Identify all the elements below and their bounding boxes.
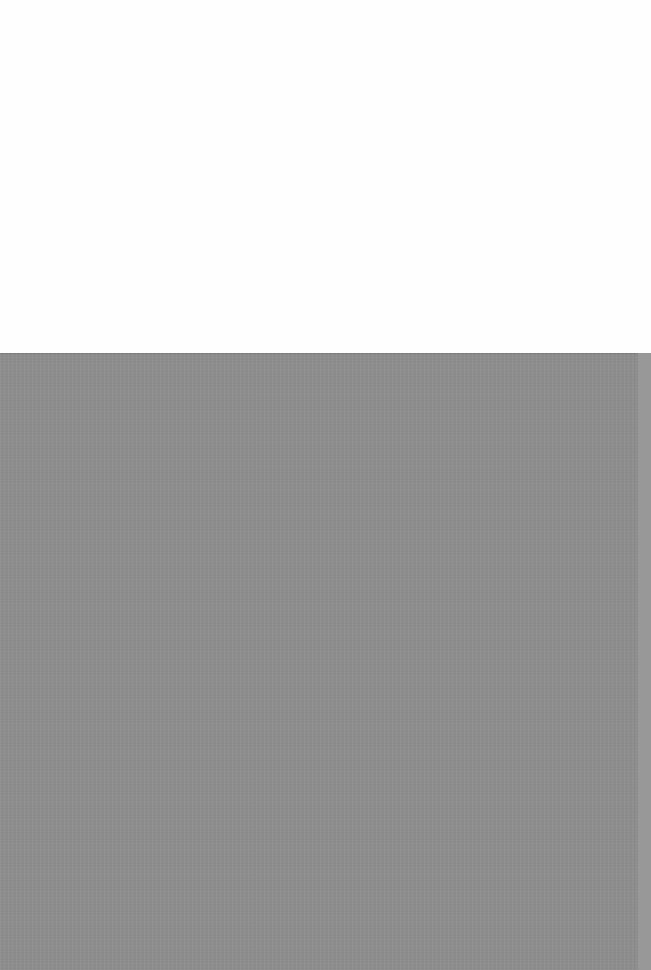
right-edge-strip (638, 353, 651, 970)
gray-surface (0, 353, 651, 970)
surface-edge-shadow (0, 353, 651, 355)
photo-canvas (0, 0, 651, 970)
white-surface (0, 0, 651, 353)
